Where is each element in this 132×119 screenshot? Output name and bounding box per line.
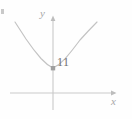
vertex-value-label: 11 xyxy=(57,56,70,68)
parabola-curve xyxy=(15,22,97,68)
math-figure: y x 11 xyxy=(0,0,132,119)
y-axis-arrowhead xyxy=(51,16,56,22)
y-axis-label: y xyxy=(40,8,45,19)
vertex-point-marker xyxy=(51,66,55,70)
x-axis-label: x xyxy=(111,96,116,107)
